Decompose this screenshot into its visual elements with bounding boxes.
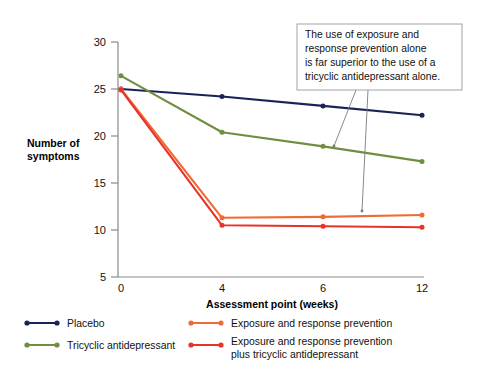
x-axis-title: Assessment point (weeks) <box>206 298 338 310</box>
data-point <box>220 215 225 220</box>
y-tick-label-30: 30 <box>94 36 106 48</box>
x-tick-label-4: 4 <box>219 282 225 294</box>
legend-label-placebo: Placebo <box>67 318 105 329</box>
data-point <box>321 144 326 149</box>
data-point <box>321 214 326 219</box>
line-chart: 30 25 20 15 10 5 0 4 6 12 Number of symp… <box>0 0 477 375</box>
data-point <box>420 113 425 118</box>
data-point <box>119 73 124 78</box>
y-tick-marks <box>111 42 118 277</box>
data-point <box>321 224 326 229</box>
y-tick-label-15: 15 <box>94 177 106 189</box>
data-point <box>321 103 326 108</box>
x-tick-label-6: 6 <box>320 282 326 294</box>
legend-label-erp-plus-line1: Exposure and response prevention <box>231 336 392 347</box>
y-tick-label-10: 10 <box>94 224 106 236</box>
x-tick-label-12: 12 <box>416 282 428 294</box>
legend-item-placebo[interactable]: Placebo <box>24 318 104 329</box>
data-point <box>420 159 425 164</box>
data-point <box>119 87 124 92</box>
y-tick-label-20: 20 <box>94 130 106 142</box>
legend-label-tricyclic: Tricyclic antidepressant <box>67 340 175 351</box>
data-point <box>420 225 425 230</box>
chart-container: 30 25 20 15 10 5 0 4 6 12 Number of symp… <box>0 0 477 375</box>
callout-line-1: The use of exposure and <box>305 29 419 40</box>
data-point <box>220 130 225 135</box>
data-point <box>220 94 225 99</box>
y-tick-label-25: 25 <box>94 83 106 95</box>
y-axis-title-line1: Number of <box>27 137 80 149</box>
callout-annotation: The use of exposure and response prevent… <box>297 24 462 90</box>
legend-label-erp: Exposure and response prevention <box>231 318 392 329</box>
y-axis-title-line2: symptoms <box>27 150 80 162</box>
callout-line-3: is far superior to the use of a <box>305 57 436 68</box>
callout-line-4: tricyclic antidepressant alone. <box>305 71 440 82</box>
legend-item-tricyclic-antidepressant[interactable]: Tricyclic antidepressant <box>24 340 175 351</box>
legend-item-erp-plus-tricyclic[interactable]: Exposure and response prevention plus tr… <box>188 336 392 360</box>
data-point <box>420 212 425 217</box>
series-exposure-response-prevention <box>119 87 425 221</box>
legend-label-erp-plus-line2: plus tricyclic antidepressant <box>231 349 358 360</box>
legend-item-exposure-response-prevention[interactable]: Exposure and response prevention <box>188 318 392 329</box>
x-tick-label-0: 0 <box>118 282 124 294</box>
y-tick-label-5: 5 <box>100 271 106 283</box>
chart-legend: Placebo Tricyclic antidepressant Exposur… <box>24 318 392 360</box>
callout-line-2: response prevention alone <box>305 43 427 54</box>
data-point <box>220 223 225 228</box>
series-erp-plus-tricyclic <box>119 87 425 229</box>
series-placebo <box>119 87 425 118</box>
